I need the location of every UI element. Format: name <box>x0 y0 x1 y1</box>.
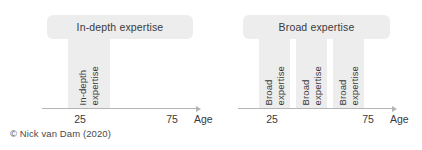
panel-broad: Broad expertise Broad expertise Broad ex… <box>196 0 407 128</box>
panel-in-depth: In-depth expertise In-depth expertise 25… <box>0 0 211 128</box>
stem-column-broad-1: Broad expertise <box>259 39 290 108</box>
expertise-diagram: In-depth expertise In-depth expertise 25… <box>0 0 422 150</box>
stem-label-in-depth: In-depth expertise <box>77 66 101 105</box>
stem-column-broad-2: Broad expertise <box>296 39 327 108</box>
stem-column-in-depth: In-depth expertise <box>68 39 110 108</box>
tick-label-right-25: 25 <box>252 113 292 125</box>
stem-label-broad-2: Broad expertise <box>300 66 324 105</box>
stem-column-broad-3: Broad expertise <box>333 39 364 108</box>
cap-label-broad: Broad expertise <box>279 21 355 33</box>
axis-line-left <box>42 108 198 109</box>
cap-bar-in-depth: In-depth expertise <box>47 15 193 39</box>
tick-label-right-75: 75 <box>348 113 388 125</box>
copyright-credit: © Nick van Dam (2020) <box>10 128 111 139</box>
tick-label-left-75: 75 <box>152 113 192 125</box>
cap-bar-broad: Broad expertise <box>243 15 390 39</box>
axis-title-right: Age <box>390 113 409 125</box>
axis-arrow-right-icon <box>392 106 397 112</box>
stem-label-broad-3: Broad expertise <box>337 66 361 105</box>
axis-line-right <box>238 108 394 109</box>
stem-label-broad-1: Broad expertise <box>263 66 287 105</box>
tick-label-left-25: 25 <box>60 113 100 125</box>
cap-label-in-depth: In-depth expertise <box>77 21 164 33</box>
